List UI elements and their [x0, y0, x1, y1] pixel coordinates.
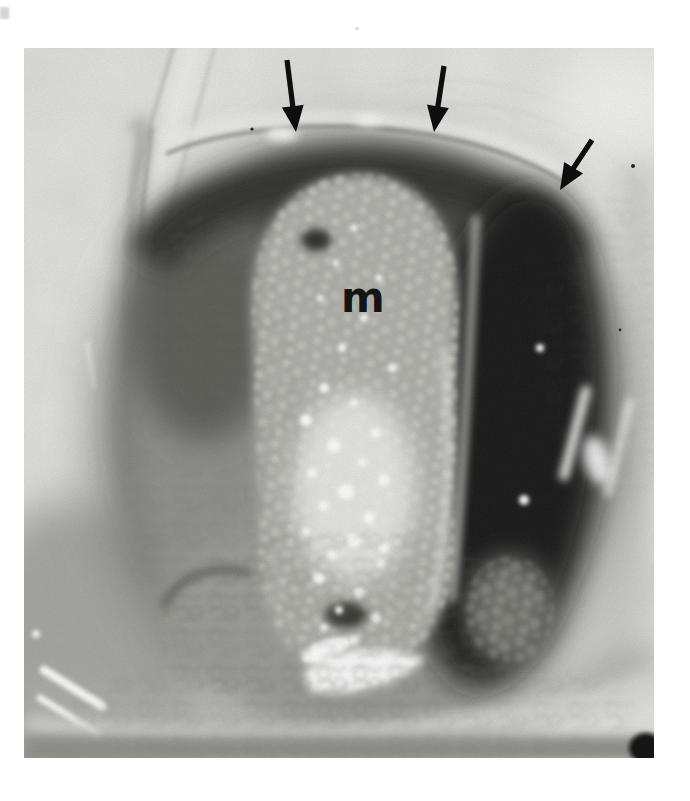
specimen-photograph: m	[24, 48, 654, 758]
mass-label: m	[341, 273, 385, 322]
page-speck	[355, 27, 359, 30]
page-smudge	[0, 7, 9, 19]
album-page: m	[0, 0, 690, 801]
specimen-photo-canvas: m	[24, 48, 654, 758]
photo-texture	[24, 48, 654, 758]
